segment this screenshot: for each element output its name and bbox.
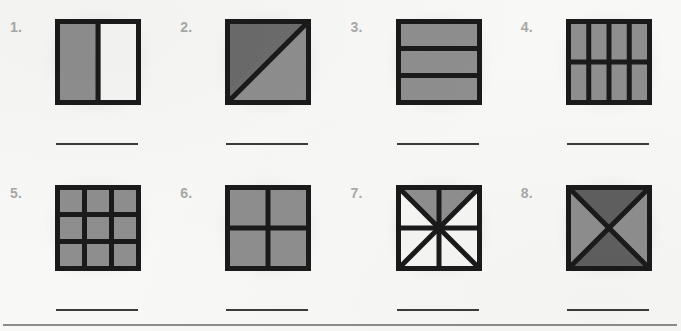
- shape-square-diagonal-halves: [225, 19, 311, 105]
- fraction-worksheet: 1. 2.: [0, 0, 681, 331]
- figure-item-1[interactable]: 1.: [0, 0, 170, 165]
- shape-square-eighths-star: [396, 185, 482, 271]
- figure-number-2: 2.: [180, 20, 192, 34]
- shape-square-grid-2x2: [225, 185, 311, 271]
- figure-item-2[interactable]: 2.: [170, 0, 340, 165]
- figure-item-8[interactable]: 8.: [511, 166, 681, 331]
- answer-blank-8[interactable]: [567, 309, 649, 311]
- answer-blank-2[interactable]: [226, 143, 308, 145]
- shape-square-grid-3x3: [55, 185, 141, 271]
- figure-item-6[interactable]: 6.: [170, 166, 340, 331]
- figure-row-1: 1. 2.: [0, 0, 681, 165]
- answer-blank-4[interactable]: [567, 143, 649, 145]
- answer-blank-1[interactable]: [56, 143, 138, 145]
- figure-item-5[interactable]: 5.: [0, 166, 170, 331]
- figure-number-8: 8.: [521, 186, 533, 200]
- figure-number-7: 7.: [351, 186, 363, 200]
- figure-row-2: 5. 6.: [0, 166, 681, 331]
- shape-square-horizontal-thirds: [396, 19, 482, 105]
- figure-number-3: 3.: [351, 20, 363, 34]
- answer-blank-7[interactable]: [397, 309, 479, 311]
- page-divider-rule: [3, 324, 677, 326]
- shape-square-diagonal-quarters: [566, 185, 652, 271]
- answer-blank-6[interactable]: [226, 309, 308, 311]
- answer-blank-3[interactable]: [397, 143, 479, 145]
- figure-number-6: 6.: [180, 186, 192, 200]
- figure-number-1: 1.: [10, 20, 22, 34]
- answer-blank-5[interactable]: [56, 309, 138, 311]
- shape-square-vertical-halves: [55, 19, 141, 105]
- figure-item-7[interactable]: 7.: [341, 166, 511, 331]
- figure-number-5: 5.: [10, 186, 22, 200]
- figure-item-3[interactable]: 3.: [341, 0, 511, 165]
- figure-item-4[interactable]: 4.: [511, 0, 681, 165]
- shape-square-grid-4x2: [566, 19, 652, 105]
- figure-number-4: 4.: [521, 20, 533, 34]
